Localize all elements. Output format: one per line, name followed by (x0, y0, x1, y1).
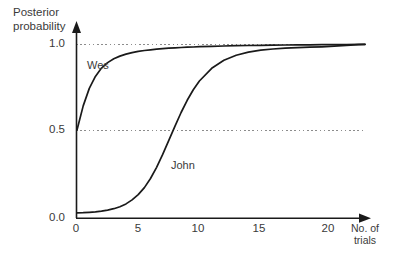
x-axis-title-line1: No. of (351, 222, 379, 234)
curve-john (77, 44, 365, 212)
x-axis-title-line2: trials (354, 234, 376, 246)
y-axis-title-line1: Posterior (13, 6, 59, 18)
series-label-wes: Wes (87, 59, 109, 72)
y-tick-label-0.0: 0.0 (31, 211, 65, 225)
y-tick-label-0.5: 0.5 (31, 123, 65, 137)
x-tick-label-15: 15 (247, 222, 271, 236)
curve-wes (77, 44, 365, 130)
series-label-john: John (171, 159, 195, 172)
y-tick-label-1.0: 1.0 (31, 37, 65, 51)
x-tick-label-20: 20 (316, 222, 340, 236)
x-axis-title: No. oftrials (337, 222, 393, 247)
x-tick-label-5: 5 (126, 222, 150, 236)
x-tick-label-0: 0 (64, 222, 88, 236)
y-axis-arrowhead (72, 21, 81, 33)
y-axis-title-line2: probability (13, 20, 65, 32)
x-tick-label-10: 10 (186, 222, 210, 236)
y-axis-title: Posteriorprobability (13, 6, 65, 33)
posterior-probability-chart: Posteriorprobability No. oftrials 0.0 0.… (0, 0, 394, 261)
